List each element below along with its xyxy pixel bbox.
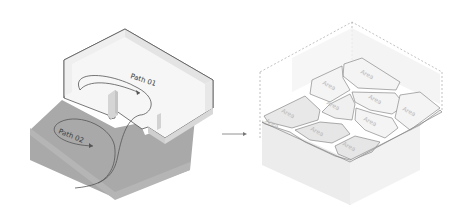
right-diagram: Area Area Area Area Area Area Area Area … (260, 22, 442, 205)
pillar (157, 113, 161, 130)
transition-arrow (222, 132, 247, 136)
arrow-right-icon (243, 132, 247, 136)
left-diagram: Path 01 Path 02 (30, 29, 213, 200)
diagram-canvas: Path 01 Path 02 (0, 0, 467, 214)
wall-right-face (205, 80, 213, 112)
partition-wall-face (115, 90, 118, 115)
